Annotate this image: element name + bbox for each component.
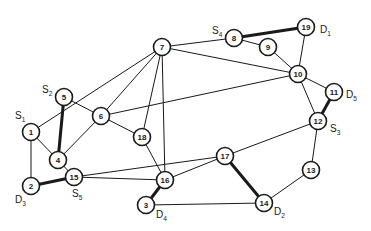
node-1: 1 xyxy=(23,124,40,141)
node-label: 9 xyxy=(266,43,271,52)
destination-label-5: D5 xyxy=(346,89,357,102)
node-7: 7 xyxy=(154,39,171,56)
terminal-letter: D xyxy=(346,89,353,100)
edge-15-17 xyxy=(74,156,225,177)
node-13: 13 xyxy=(303,162,320,179)
destination-label-3: D3 xyxy=(15,194,26,207)
node-3: 3 xyxy=(138,197,155,214)
node-8: 8 xyxy=(226,30,243,47)
terminal-letter: D xyxy=(15,194,22,205)
node-4: 4 xyxy=(50,152,67,169)
terminal-subscript: 4 xyxy=(219,31,223,38)
edge-6-7 xyxy=(101,47,162,116)
edge-8-19 xyxy=(234,27,306,38)
terminal-subscript: 2 xyxy=(281,212,285,219)
node-label: 1 xyxy=(29,128,34,137)
node-18: 18 xyxy=(134,129,151,146)
network-graph: 12345678910111213141516171819 S1D3D4S2S4… xyxy=(0,0,371,231)
terminal-subscript: 1 xyxy=(327,30,331,37)
edge-16-17 xyxy=(165,156,225,180)
destination-label-1: D1 xyxy=(320,24,331,37)
node-12: 12 xyxy=(310,113,327,130)
terminal-subscript: 1 xyxy=(22,116,26,123)
node-6: 6 xyxy=(93,108,110,125)
nodes-layer: 12345678910111213141516171819 xyxy=(23,19,343,214)
node-2: 2 xyxy=(23,178,40,195)
edge-6-10 xyxy=(101,74,298,116)
node-label: 15 xyxy=(70,173,79,182)
source-label-2: S2 xyxy=(42,84,53,97)
terminal-subscript: 3 xyxy=(337,129,341,136)
destination-label-4: D4 xyxy=(156,209,167,222)
edge-7-18 xyxy=(142,47,162,137)
node-19: 19 xyxy=(298,19,315,36)
node-14: 14 xyxy=(256,195,273,212)
edge-7-16 xyxy=(162,47,165,180)
node-label: 12 xyxy=(314,117,323,126)
node-15: 15 xyxy=(66,169,83,186)
node-label: 6 xyxy=(99,112,104,121)
terminal-subscript: 3 xyxy=(22,200,26,207)
terminal-letter: D xyxy=(274,206,281,217)
source-label-4: S4 xyxy=(212,25,223,38)
edge-15-16 xyxy=(74,177,165,180)
node-label: 16 xyxy=(161,176,170,185)
edge-3-14 xyxy=(146,203,264,205)
terminal-labels-layer: S1D3D4S2S4D5S3D2S5D1 xyxy=(15,24,357,222)
node-label: 17 xyxy=(221,152,230,161)
node-16: 16 xyxy=(157,172,174,189)
node-label: 13 xyxy=(307,166,316,175)
source-label-5: S5 xyxy=(72,188,83,201)
node-9: 9 xyxy=(260,39,277,56)
source-label-1: S1 xyxy=(15,110,26,123)
source-label-3: S3 xyxy=(330,123,341,136)
terminal-subscript: 5 xyxy=(79,194,83,201)
node-label: 5 xyxy=(62,93,67,102)
terminal-subscript: 2 xyxy=(49,90,53,97)
terminal-letter: D xyxy=(156,209,163,220)
edge-5-4 xyxy=(58,97,64,160)
terminal-letter: D xyxy=(320,24,327,35)
node-label: 11 xyxy=(330,88,339,97)
node-label: 10 xyxy=(294,70,303,79)
node-17: 17 xyxy=(217,148,234,165)
node-label: 19 xyxy=(302,23,311,32)
node-11: 11 xyxy=(326,84,343,101)
node-label: 8 xyxy=(232,34,237,43)
node-label: 14 xyxy=(260,199,269,208)
node-label: 7 xyxy=(160,43,165,52)
destination-label-2: D2 xyxy=(274,206,285,219)
terminal-subscript: 4 xyxy=(163,215,167,222)
node-label: 3 xyxy=(144,201,149,210)
node-10: 10 xyxy=(290,66,307,83)
edge-12-17 xyxy=(225,121,318,156)
node-label: 18 xyxy=(138,133,147,142)
edge-7-8 xyxy=(162,38,234,47)
node-label: 2 xyxy=(29,182,34,191)
terminal-subscript: 5 xyxy=(353,95,357,102)
edge-7-10 xyxy=(162,47,298,74)
node-5: 5 xyxy=(56,89,73,106)
node-label: 4 xyxy=(56,156,61,165)
